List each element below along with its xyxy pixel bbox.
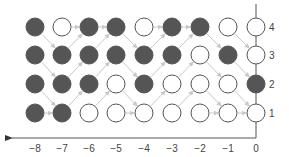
transition-arrow (123, 34, 137, 48)
filled-state-node (247, 75, 265, 93)
empty-state-node (247, 46, 265, 64)
transition-arrow (69, 91, 82, 105)
empty-state-node (135, 18, 153, 36)
filled-state-node (80, 46, 98, 64)
y-row-label: 4 (269, 22, 275, 33)
transition-arrow (42, 34, 55, 48)
filled-state-node (53, 75, 71, 93)
filled-state-node (80, 75, 98, 93)
empty-state-node (163, 75, 181, 93)
filled-state-node (26, 75, 44, 93)
transition-arrow (69, 62, 82, 76)
empty-state-node (107, 75, 125, 93)
y-row-label: 2 (269, 79, 275, 90)
empty-state-node (247, 18, 265, 36)
filled-state-node (135, 75, 153, 93)
empty-state-node (80, 104, 98, 122)
empty-state-node (107, 104, 125, 122)
empty-state-node (53, 18, 71, 36)
y-row-label: 1 (269, 108, 275, 119)
x-tick-label: −2 (194, 143, 206, 154)
transition-arrow (42, 91, 55, 105)
x-tick-label: −4 (138, 143, 150, 154)
transition-arrow (235, 62, 249, 77)
empty-state-node (135, 104, 153, 122)
filled-state-node (107, 46, 125, 64)
filled-state-node (26, 46, 44, 64)
transition-arrow (96, 91, 109, 105)
state-nodes (26, 18, 265, 122)
empty-state-node (191, 104, 209, 122)
transition-arrow (123, 91, 137, 106)
filled-state-node (191, 18, 209, 36)
filled-state-node (107, 18, 125, 36)
filled-state-node (26, 18, 44, 36)
x-tick-label: −5 (110, 143, 122, 154)
filled-state-node (53, 46, 71, 64)
x-tick-label: −7 (56, 143, 68, 154)
filled-state-node (163, 46, 181, 64)
empty-state-node (247, 104, 265, 122)
filled-state-node (26, 104, 44, 122)
empty-state-node (191, 46, 209, 64)
transition-arrow (235, 34, 249, 48)
empty-state-node (219, 104, 237, 122)
empty-state-node (219, 75, 237, 93)
filled-state-node (135, 46, 153, 64)
transition-arrows (42, 27, 249, 113)
filled-state-node (53, 104, 71, 122)
y-row-label: 3 (269, 50, 275, 61)
filled-state-node (80, 18, 98, 36)
transition-arrow (96, 34, 109, 48)
x-tick-label: −3 (166, 143, 178, 154)
filled-state-node (219, 46, 237, 64)
transition-arrow (151, 34, 165, 48)
transition-arrow (179, 34, 193, 48)
y-axis-row-labels: 4321 (269, 22, 275, 119)
transition-arrow (69, 34, 82, 48)
x-tick-label: −6 (83, 143, 95, 154)
transition-arrow (207, 34, 221, 48)
x-tick-label: −8 (29, 143, 41, 154)
transition-arrow (123, 62, 137, 77)
transition-arrow (207, 62, 221, 77)
transition-arrow (151, 62, 165, 77)
transition-arrow (235, 91, 249, 106)
x-tick-label: 0 (253, 143, 259, 154)
lattice-diagram: −8−7−6−5−4−3−2−10 4321 (0, 0, 289, 157)
filled-state-node (163, 18, 181, 36)
empty-state-node (163, 104, 181, 122)
transition-arrow (151, 91, 165, 106)
empty-state-node (191, 75, 209, 93)
x-tick-label: −1 (222, 143, 234, 154)
transition-arrow (42, 62, 55, 76)
empty-state-node (219, 18, 237, 36)
x-axis-tick-labels: −8−7−6−5−4−3−2−10 (29, 143, 259, 154)
transition-arrow (179, 62, 193, 77)
transition-arrow (179, 91, 193, 106)
transition-arrow (207, 91, 221, 106)
transition-arrow (96, 62, 109, 76)
